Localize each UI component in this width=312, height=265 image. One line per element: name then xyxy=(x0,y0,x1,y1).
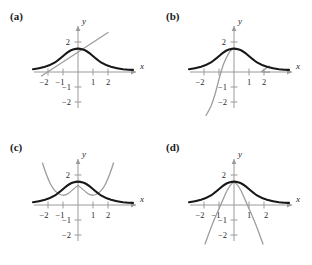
panel-c-label: (c) xyxy=(10,141,22,153)
panel-a: (a) −2 −1 1 2 2 −1 −2 x y xyxy=(0,0,156,132)
y-ticklabel-neg1: −1 xyxy=(62,82,71,92)
x-ticklabel-neg2: −2 xyxy=(39,210,48,220)
panel-a-plot: −2 −1 1 2 2 −1 −2 x y xyxy=(0,0,156,132)
y-axis-arrow xyxy=(76,159,81,164)
y-ticklabel-pos2: 2 xyxy=(66,37,70,47)
y-ticklabel-pos2: 2 xyxy=(222,170,226,180)
x-ticklabel-pos1: 1 xyxy=(247,77,251,87)
x-axis-label: x xyxy=(295,61,300,71)
x-ticklabel-neg2: −2 xyxy=(195,210,204,220)
main-bell-curve xyxy=(33,49,133,70)
panel-c: (c) −2 −1 1 2 2 −1 −2 x y xyxy=(0,133,156,265)
panel-b-label: (b) xyxy=(166,10,179,22)
y-axis-arrow xyxy=(76,26,81,31)
y-axis-label: y xyxy=(81,149,86,159)
panel-c-plot: −2 −1 1 2 2 −1 −2 x y xyxy=(0,133,156,265)
y-axis-arrow xyxy=(232,159,237,164)
comparison-curve-line xyxy=(42,33,109,77)
x-ticklabel-pos2: 2 xyxy=(106,77,110,87)
y-ticklabel-neg1: −1 xyxy=(62,215,71,225)
y-ticklabel-neg2: −2 xyxy=(62,97,71,107)
y-axis-label: y xyxy=(81,16,86,26)
y-axis-label: y xyxy=(237,16,242,26)
y-axis-arrow xyxy=(232,26,237,31)
x-ticklabel-neg2: −2 xyxy=(195,77,204,87)
y-ticklabel-neg2: −2 xyxy=(218,230,227,240)
main-bell-curve xyxy=(189,49,289,70)
y-ticklabel-neg1: −1 xyxy=(218,215,227,225)
y-ticklabel-neg2: −2 xyxy=(218,97,227,107)
main-bell-curve xyxy=(33,182,133,203)
x-ticklabel-pos2: 2 xyxy=(262,77,266,87)
x-axis-label: x xyxy=(139,61,144,71)
x-axis-label: x xyxy=(295,194,300,204)
y-ticklabel-neg2: −2 xyxy=(62,230,71,240)
figure-container: (a) −2 −1 1 2 2 −1 −2 x y xyxy=(0,0,312,265)
y-ticklabel-neg1: −1 xyxy=(218,82,227,92)
y-axis-label: y xyxy=(237,149,242,159)
y-ticklabel-pos2: 2 xyxy=(222,37,226,47)
panel-d-label: (d) xyxy=(166,141,179,153)
x-ticklabel-pos1: 1 xyxy=(91,77,95,87)
x-ticklabel-pos2: 2 xyxy=(264,210,268,220)
main-bell-curve xyxy=(189,182,289,203)
x-ticklabel-pos1: 1 xyxy=(91,210,95,220)
y-ticklabel-pos2: 2 xyxy=(66,170,70,180)
panel-a-label: (a) xyxy=(10,10,23,22)
panel-b: (b) −2 1 2 2 −1 −2 x y xyxy=(156,0,312,132)
x-axis-label: x xyxy=(139,194,144,204)
x-ticklabel-neg2: −2 xyxy=(39,77,48,87)
panel-d: (d) −2 −1 1 2 2 −1 −2 x y xyxy=(156,133,312,265)
x-ticklabel-pos2: 2 xyxy=(106,210,110,220)
